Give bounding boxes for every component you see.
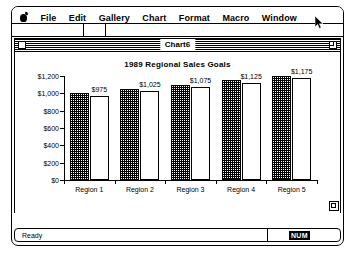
status-bar: Ready NUM (14, 228, 341, 242)
y-axis-tick-label: $400 (43, 142, 59, 149)
bar[interactable] (171, 85, 190, 180)
bar[interactable] (120, 89, 139, 180)
bar[interactable] (242, 83, 261, 181)
x-axis-tick (317, 180, 318, 184)
plot-area: $0$200$400$600$800$1,000$1,200 $975$1,02… (64, 76, 317, 180)
resize-grow-box-icon[interactable] (329, 201, 339, 211)
bar[interactable] (292, 78, 311, 180)
formula-bar (12, 24, 343, 37)
bar[interactable] (90, 96, 109, 181)
status-message: Ready (22, 231, 42, 240)
y-axis-tick-label: $1,000 (38, 90, 59, 97)
formula-input[interactable] (106, 24, 343, 36)
close-box-icon[interactable] (18, 41, 26, 49)
num-lock-indicator: NUM (289, 231, 310, 240)
category-label: Region 1 (75, 186, 103, 193)
y-axis-tick-label: $600 (43, 125, 59, 132)
y-axis-tick (60, 128, 65, 129)
category-label: Region 5 (278, 186, 306, 193)
name-box-input[interactable] (12, 24, 84, 36)
x-axis-tick (266, 180, 267, 184)
application-window: File Edit Gallery Chart Format Macro Win… (11, 6, 344, 246)
y-axis-tick-label: $0 (51, 177, 59, 184)
bar-data-label: $1,075 (190, 77, 211, 84)
menu-bar: File Edit Gallery Chart Format Macro Win… (12, 7, 343, 24)
apple-logo-icon (20, 14, 27, 22)
y-axis-tick (60, 76, 65, 77)
category-label: Region 4 (227, 186, 255, 193)
chart-canvas[interactable]: 1989 Regional Sales Goals $0$200$400$600… (15, 52, 340, 213)
bar-data-label: $1,025 (139, 81, 160, 88)
bar[interactable] (140, 91, 159, 180)
y-axis-tick-label: $200 (43, 159, 59, 166)
bar[interactable] (191, 87, 210, 180)
category-label: Region 3 (176, 186, 204, 193)
x-axis-tick (165, 180, 166, 184)
y-axis-tick-label: $800 (43, 107, 59, 114)
x-axis-tick (64, 180, 65, 184)
document-title: Chart6 (160, 39, 195, 50)
chart-document-window: Chart6 1989 Regional Sales Goals $0$200$… (14, 38, 341, 213)
y-axis-tick (60, 93, 65, 94)
bar[interactable] (70, 93, 89, 180)
x-axis-tick (115, 180, 116, 184)
x-axis-line (64, 180, 317, 181)
y-axis-tick (60, 111, 65, 112)
bar-data-label: $975 (92, 86, 108, 93)
x-axis-tick (216, 180, 217, 184)
zoom-box-icon[interactable] (329, 41, 337, 49)
y-axis-tick-label: $1,200 (38, 73, 59, 80)
formula-fx-box[interactable] (84, 24, 106, 36)
y-axis-tick (60, 145, 65, 146)
category-label: Region 2 (126, 186, 154, 193)
y-axis-tick (60, 163, 65, 164)
bar-data-label: $1,125 (240, 73, 261, 80)
document-title-bar[interactable]: Chart6 (15, 39, 340, 52)
bar[interactable] (272, 76, 291, 180)
bar[interactable] (222, 80, 241, 180)
bar-data-label: $1,175 (291, 68, 312, 75)
status-divider (267, 229, 268, 241)
